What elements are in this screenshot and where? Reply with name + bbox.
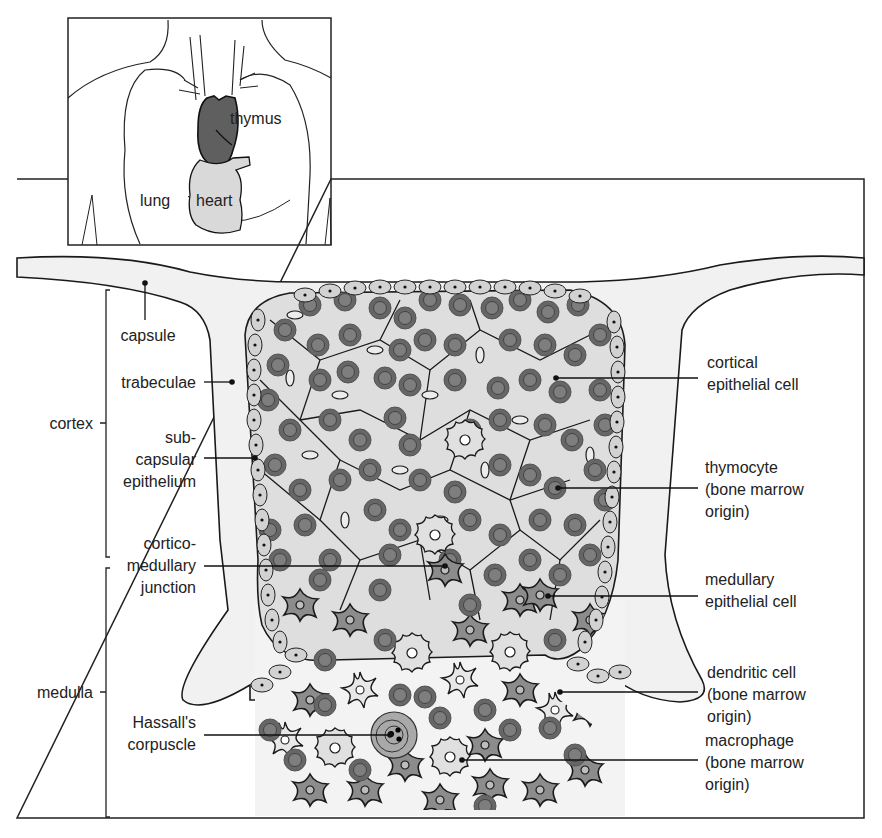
inset-label-heart: heart xyxy=(196,192,233,209)
label-hassalls-corpuscle: Hassall's corpuscle xyxy=(128,714,197,753)
label-thymocyte: thymocyte (bone marrow origin) xyxy=(705,459,804,520)
svg-text:sub-: sub- xyxy=(165,429,196,446)
svg-text:medullary: medullary xyxy=(127,557,196,574)
thymus-structure-diagram: thymus lung heart xyxy=(0,0,882,838)
label-corticomedullary-junction: cortico- medullary junction xyxy=(127,535,196,596)
svg-text:origin): origin) xyxy=(705,776,749,793)
svg-text:macrophage: macrophage xyxy=(705,732,794,749)
svg-text:origin): origin) xyxy=(707,708,751,725)
label-cortical-epithelial-cell: cortical epithelial cell xyxy=(707,354,799,393)
svg-text:medullary: medullary xyxy=(705,571,774,588)
label-capsule: capsule xyxy=(120,327,175,344)
inset-label-lung: lung xyxy=(140,192,170,209)
svg-text:corpuscle: corpuscle xyxy=(128,736,197,753)
svg-text:dendritic cell: dendritic cell xyxy=(707,664,796,681)
svg-text:cortical: cortical xyxy=(707,354,758,371)
svg-text:origin): origin) xyxy=(705,503,749,520)
cortex-bracket xyxy=(100,290,110,557)
medulla-bracket xyxy=(100,568,110,817)
inset-chest-panel: thymus lung heart xyxy=(68,18,331,245)
svg-text:epithelial cell: epithelial cell xyxy=(705,593,797,610)
main-panel: cortex medulla capsule trabeculae sub- c… xyxy=(17,179,864,818)
inset-label-thymus: thymus xyxy=(230,110,282,127)
label-macrophage: macrophage (bone marrow origin) xyxy=(705,732,804,793)
svg-text:(bone marrow: (bone marrow xyxy=(705,754,804,771)
svg-text:junction: junction xyxy=(140,579,196,596)
region-label-medulla: medulla xyxy=(37,684,93,701)
svg-text:Hassall's: Hassall's xyxy=(132,714,196,731)
svg-text:epithelial cell: epithelial cell xyxy=(707,376,799,393)
svg-text:capsular: capsular xyxy=(136,451,197,468)
label-medullary-epithelial-cell: medullary epithelial cell xyxy=(705,571,797,610)
label-trabeculae: trabeculae xyxy=(121,374,196,391)
svg-text:cortico-: cortico- xyxy=(144,535,196,552)
svg-text:thymocyte: thymocyte xyxy=(705,459,778,476)
svg-text:(bone marrow: (bone marrow xyxy=(705,481,804,498)
region-label-cortex: cortex xyxy=(49,415,93,432)
label-subcapsular-epithelium: sub- capsular epithelium xyxy=(123,429,197,490)
svg-text:epithelium: epithelium xyxy=(123,473,196,490)
svg-text:(bone marrow: (bone marrow xyxy=(707,686,806,703)
label-dendritic-cell: dendritic cell (bone marrow origin) xyxy=(707,664,806,725)
